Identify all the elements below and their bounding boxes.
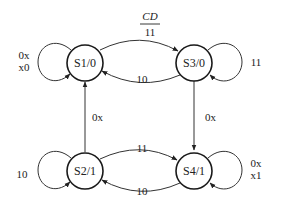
state-diagram: CD 11 10 0x x0 11 0x 0x 11 10 10 0x x1 S… — [0, 0, 284, 213]
loop-label-s2: 10 — [17, 168, 29, 180]
state-label: S4/1 — [183, 164, 205, 178]
loop-label-s1-line2: x0 — [19, 61, 31, 73]
legend-outputs-label: 11 — [145, 26, 156, 38]
edge-label-s3-to-s1: 10 — [137, 73, 149, 85]
loop-label-s1-line1: 0x — [19, 49, 31, 61]
loop-s3 — [208, 43, 242, 81]
loop-s4 — [208, 151, 242, 189]
loop-s1 — [38, 43, 71, 80]
edge-s1-to-s3 — [100, 40, 178, 51]
edge-label-s4-to-s2: 10 — [137, 185, 149, 197]
loop-s2 — [38, 151, 71, 188]
edge-label-s2-to-s1: 0x — [92, 111, 104, 123]
edge-label-s3-to-s4: 0x — [205, 111, 217, 123]
state-s3: S3/0 — [176, 45, 212, 81]
loop-label-s4-line2: x1 — [251, 169, 262, 181]
state-label: S3/0 — [183, 56, 205, 70]
edge-label-s2-to-s4: 11 — [137, 142, 148, 154]
legend-inputs-label: CD — [142, 10, 157, 22]
state-s1: S1/0 — [67, 45, 103, 81]
state-label: S1/0 — [74, 56, 96, 70]
state-s4: S4/1 — [176, 153, 212, 189]
loop-label-s4-line1: 0x — [251, 157, 263, 169]
transition-legend: CD 11 — [140, 10, 160, 38]
state-label: S2/1 — [74, 164, 96, 178]
loop-label-s3: 11 — [251, 56, 262, 68]
state-s2: S2/1 — [67, 153, 103, 189]
